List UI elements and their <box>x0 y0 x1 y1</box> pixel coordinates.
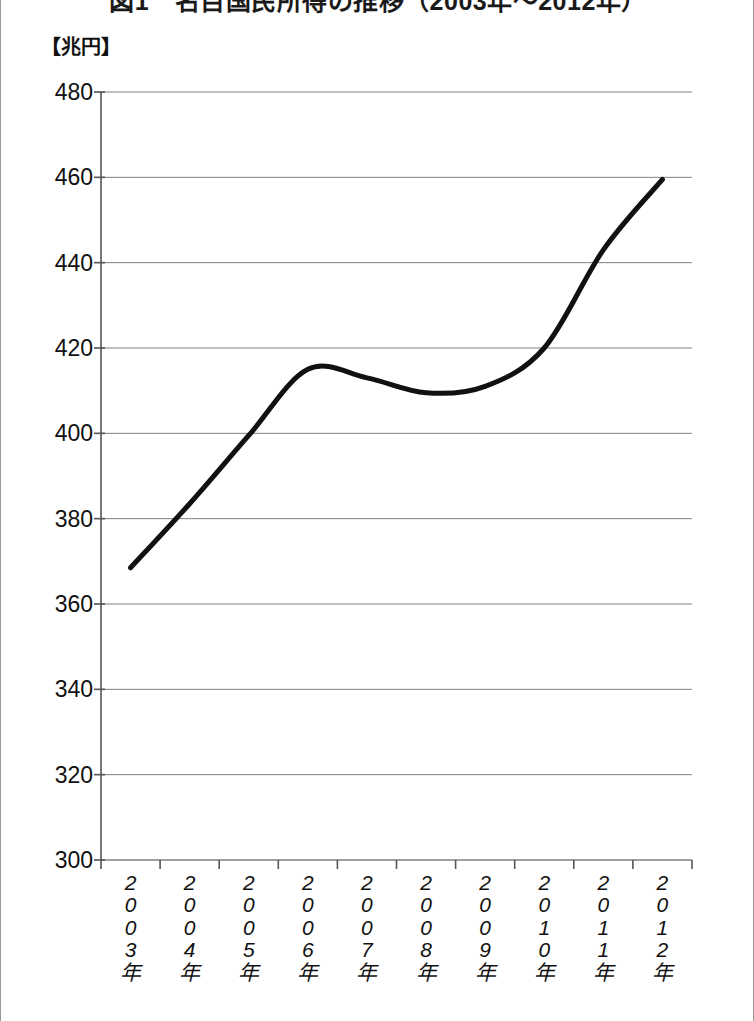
x-axis-tick-label-char: 0 <box>111 894 151 916</box>
x-axis-tick-label: 2007年 <box>347 872 387 984</box>
x-axis-tick-label-char: 年 <box>583 962 623 984</box>
x-axis-tick-label-char: 年 <box>288 962 328 984</box>
y-axis-tick-label: 320 <box>35 761 93 788</box>
x-axis-tick-marks <box>101 860 692 869</box>
y-axis-tick-label: 300 <box>35 847 93 874</box>
y-axis-tick-label: 360 <box>35 591 93 618</box>
x-axis-tick-label: 2004年 <box>170 872 210 984</box>
x-axis-tick-label: 2006年 <box>288 872 328 984</box>
x-axis-tick-label-char: 2 <box>465 872 505 894</box>
data-series-line <box>131 179 663 567</box>
chart-title: 図1 名目国民所得の推移（2003年～2012年） <box>1 0 754 17</box>
x-axis-tick-label-char: 1 <box>642 917 682 939</box>
x-axis-tick-label-char: 年 <box>465 962 505 984</box>
x-axis-tick-label-char: 0 <box>642 894 682 916</box>
y-axis-unit-label: 【兆円】 <box>41 31 121 60</box>
x-axis-tick-label-char: 年 <box>347 962 387 984</box>
x-axis-tick-label-char: 年 <box>229 962 269 984</box>
x-axis-tick-label-char: 5 <box>229 939 269 961</box>
x-axis-tick-labels: 2003年2004年2005年2006年2007年2008年2009年2010年… <box>101 872 692 1002</box>
gridlines <box>101 92 692 860</box>
x-axis-tick-label-char: 年 <box>642 962 682 984</box>
x-axis-tick-label-char: 9 <box>465 939 505 961</box>
x-axis-tick-label-char: 2 <box>406 872 446 894</box>
x-axis-tick-label-char: 年 <box>111 962 151 984</box>
x-axis-tick-label-char: 年 <box>524 962 564 984</box>
x-axis-tick-label-char: 4 <box>170 939 210 961</box>
x-axis-tick-label-char: 0 <box>583 894 623 916</box>
x-axis-tick-label-char: 2 <box>642 939 682 961</box>
x-axis-tick-label: 2012年 <box>642 872 682 984</box>
x-axis-tick-label: 2008年 <box>406 872 446 984</box>
line-chart-svg <box>101 92 692 860</box>
x-axis-tick-label-char: 7 <box>347 939 387 961</box>
x-axis-tick-label-char: 6 <box>288 939 328 961</box>
x-axis-tick-label-char: 0 <box>347 894 387 916</box>
plot-area <box>101 92 692 860</box>
x-axis-tick-label-char: 2 <box>170 872 210 894</box>
x-axis-tick-label-char: 年 <box>170 962 210 984</box>
y-axis-tick-label: 380 <box>35 505 93 532</box>
x-axis-tick-label-char: 1 <box>583 939 623 961</box>
x-axis-tick-label-char: 0 <box>465 894 505 916</box>
x-axis-tick-label-char: 年 <box>406 962 446 984</box>
x-axis-tick-label: 2003年 <box>111 872 151 984</box>
x-axis-tick-label-char: 0 <box>288 917 328 939</box>
x-axis-tick-label-char: 0 <box>347 917 387 939</box>
x-axis-tick-label-char: 2 <box>524 872 564 894</box>
x-axis-tick-label-char: 2 <box>288 872 328 894</box>
x-axis-tick-label-char: 0 <box>170 894 210 916</box>
x-axis-tick-label-char: 0 <box>524 939 564 961</box>
x-axis-tick-label-char: 0 <box>111 917 151 939</box>
x-axis-tick-label-char: 2 <box>347 872 387 894</box>
x-axis-tick-label-char: 2 <box>583 872 623 894</box>
x-axis-tick-label-char: 3 <box>111 939 151 961</box>
x-axis-tick-label-char: 2 <box>642 872 682 894</box>
x-axis-tick-label: 2010年 <box>524 872 564 984</box>
x-axis-tick-label-char: 0 <box>406 917 446 939</box>
y-axis-tick-label: 460 <box>35 164 93 191</box>
x-axis-tick-label-char: 0 <box>229 917 269 939</box>
y-axis-tick-label: 480 <box>35 79 93 106</box>
x-axis-tick-label-char: 0 <box>288 894 328 916</box>
x-axis-tick-label-char: 0 <box>524 894 564 916</box>
x-axis-tick-label-char: 0 <box>170 917 210 939</box>
x-axis-tick-label-char: 0 <box>465 917 505 939</box>
x-axis-tick-label-char: 0 <box>229 894 269 916</box>
y-axis-tick-label: 340 <box>35 676 93 703</box>
x-axis-tick-label: 2011年 <box>583 872 623 984</box>
x-axis-tick-label: 2005年 <box>229 872 269 984</box>
axis-lines <box>94 92 105 860</box>
x-axis-tick-label-char: 8 <box>406 939 446 961</box>
y-axis-tick-labels: 480460440420400380360340320300 <box>31 92 93 860</box>
x-axis-tick-label-char: 1 <box>524 917 564 939</box>
y-axis-tick-label: 440 <box>35 249 93 276</box>
x-axis-tick-label-char: 1 <box>583 917 623 939</box>
y-axis-tick-label: 400 <box>35 420 93 447</box>
x-axis-tick-label-char: 2 <box>111 872 151 894</box>
x-axis-tick-label-char: 2 <box>229 872 269 894</box>
page-frame: 図1 名目国民所得の推移（2003年～2012年） 【兆円】 480460440… <box>0 0 754 1021</box>
x-axis-tick-label: 2009年 <box>465 872 505 984</box>
x-axis-tick-label-char: 0 <box>406 894 446 916</box>
y-axis-tick-label: 420 <box>35 335 93 362</box>
